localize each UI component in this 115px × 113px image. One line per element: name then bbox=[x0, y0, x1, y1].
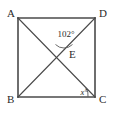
vertex-label-d: D bbox=[99, 7, 107, 19]
angle-label-x-degrees: x° bbox=[79, 87, 88, 97]
geometry-figure: A D B C E 102° x° bbox=[0, 0, 115, 113]
geometry-canvas: A D B C E 102° x° bbox=[0, 0, 115, 113]
vertex-label-a: A bbox=[7, 7, 15, 19]
angle-label-102-degrees: 102° bbox=[57, 29, 75, 39]
vertex-label-e: E bbox=[69, 48, 76, 60]
vertex-label-c: C bbox=[99, 93, 106, 105]
vertex-label-b: B bbox=[7, 93, 14, 105]
